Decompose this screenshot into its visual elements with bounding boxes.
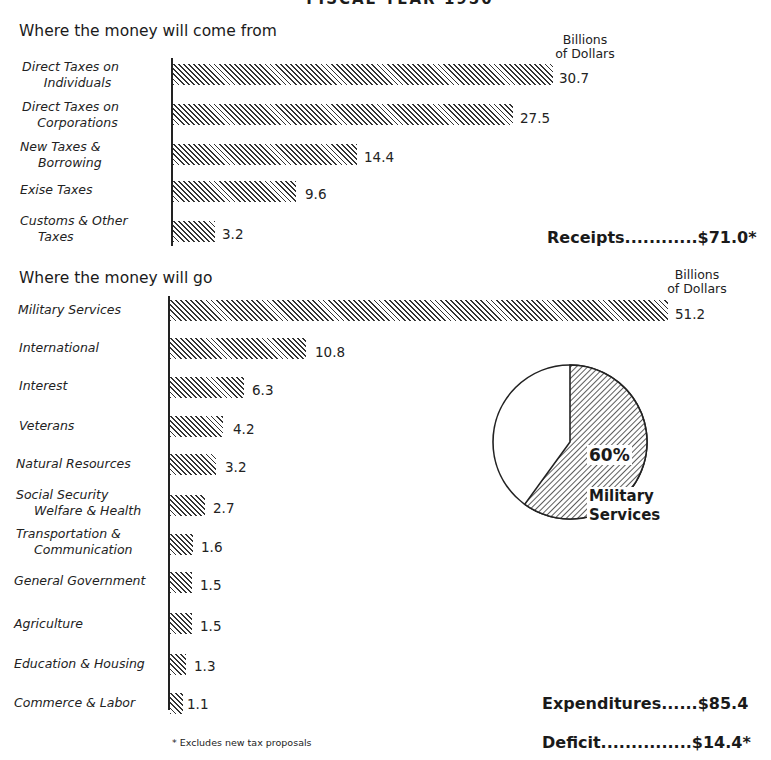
- expense-label-agriculture: Agriculture: [14, 616, 83, 632]
- label-line-2: Taxes: [8, 229, 148, 245]
- expense-label-natural-resources: Natural Resources: [16, 456, 131, 472]
- pie-slice-label-line-2: Services: [589, 506, 660, 525]
- unit-line-2: of Dollars: [652, 282, 742, 296]
- pie-percent-label: 60%: [587, 445, 632, 465]
- expenditures-total: Expenditures......$85.4: [542, 694, 748, 713]
- expenditures-section-title: Where the money will go: [19, 269, 212, 287]
- label-line-2: Welfare & Health: [16, 503, 141, 519]
- receipts-section-title: Where the money will come from: [19, 22, 277, 40]
- receipt-bar-new-taxes: [173, 144, 357, 165]
- expense-bar-education-housing: [170, 654, 186, 675]
- expense-value-natural-resources: 3.2: [225, 459, 246, 475]
- expense-label-international: International: [19, 340, 99, 356]
- expense-value-education-housing: 1.3: [194, 658, 215, 674]
- receipt-label-corporations: Direct Taxes on Corporations: [8, 99, 133, 131]
- receipt-value-new-taxes: 14.4: [364, 149, 394, 165]
- expense-label-social-security: Social Security Welfare & Health: [16, 487, 141, 519]
- unit-line-2: of Dollars: [540, 47, 630, 61]
- receipt-label-individuals: Direct Taxes on Individuals: [8, 59, 133, 91]
- receipt-bar-customs: [173, 221, 215, 242]
- expense-label-transportation: Transportation & Communication: [16, 526, 133, 558]
- label-line-1: Customs & Other: [8, 213, 148, 229]
- receipts-total: Receipts............$71.0*: [547, 228, 757, 247]
- label-line-2: Communication: [16, 542, 133, 558]
- expenditures-unit-label: Billions of Dollars: [652, 268, 742, 296]
- expense-value-interest: 6.3: [252, 382, 273, 398]
- expense-value-transportation: 1.6: [201, 539, 222, 555]
- pie-slice-label: Military Services: [587, 487, 662, 525]
- expense-bar-commerce-labor: [170, 693, 183, 714]
- unit-line-1: Billions: [652, 268, 742, 282]
- expense-label-veterans: Veterans: [19, 418, 74, 434]
- pie-slice-label-line-1: Military: [589, 487, 660, 506]
- receipt-label-exise: Exise Taxes: [20, 182, 93, 198]
- expense-value-military: 51.2: [675, 306, 705, 322]
- expense-bar-veterans: [170, 416, 223, 437]
- receipt-value-exise: 9.6: [305, 186, 326, 202]
- receipt-label-new-taxes: New Taxes & Borrowing: [8, 139, 108, 171]
- expense-label-education-housing: Education & Housing: [14, 656, 145, 672]
- receipt-value-corporations: 27.5: [520, 110, 550, 126]
- label-line-1: Social Security: [16, 487, 141, 503]
- receipts-unit-label: Billions of Dollars: [540, 33, 630, 61]
- expense-value-commerce-labor: 1.1: [187, 696, 208, 712]
- receipt-bar-exise: [173, 181, 296, 202]
- unit-line-1: Billions: [540, 33, 630, 47]
- label-line-1: Direct Taxes on: [8, 59, 133, 75]
- expense-bar-natural-resources: [170, 454, 216, 475]
- expense-bar-agriculture: [170, 613, 192, 634]
- expense-label-commerce-labor: Commerce & Labor: [14, 695, 135, 711]
- expense-label-general-government: General Government: [14, 573, 145, 589]
- label-line-1: New Taxes &: [8, 139, 108, 155]
- expense-bar-general-government: [170, 572, 192, 593]
- expense-value-veterans: 4.2: [233, 421, 254, 437]
- chart-main-title: FISCAL YEAR 1950: [300, 0, 500, 8]
- expense-value-general-government: 1.5: [200, 577, 221, 593]
- label-line-2: Individuals: [8, 75, 133, 91]
- receipt-bar-individuals: [173, 64, 553, 85]
- label-line-1: Direct Taxes on: [8, 99, 133, 115]
- label-line-1: Transportation &: [16, 526, 133, 542]
- expense-bar-international: [170, 338, 306, 359]
- receipt-bar-corporations: [173, 104, 513, 125]
- deficit-total: Deficit...............$14.4*: [542, 733, 751, 752]
- expense-bar-military: [170, 300, 668, 321]
- receipt-label-customs: Customs & Other Taxes: [8, 213, 148, 245]
- expense-label-interest: Interest: [19, 378, 67, 394]
- expense-value-agriculture: 1.5: [200, 618, 221, 634]
- label-line-2: Borrowing: [8, 155, 108, 171]
- expense-label-military: Military Services: [18, 302, 121, 318]
- expense-bar-transportation: [170, 534, 193, 555]
- expense-value-international: 10.8: [315, 344, 345, 360]
- footnote: * Excludes new tax proposals: [172, 737, 312, 748]
- expense-value-social-security: 2.7: [213, 500, 234, 516]
- receipt-value-individuals: 30.7: [559, 70, 589, 86]
- expense-bar-interest: [170, 377, 244, 398]
- receipt-value-customs: 3.2: [222, 226, 243, 242]
- label-line-2: Corporations: [8, 115, 133, 131]
- expense-bar-social-security: [170, 495, 205, 516]
